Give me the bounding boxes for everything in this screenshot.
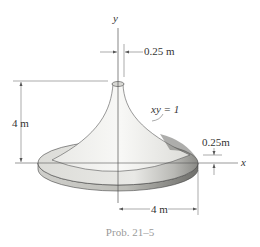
y-axis-label: y xyxy=(113,13,118,24)
height-label: 4 m xyxy=(12,118,29,129)
x-axis-label: x xyxy=(241,157,246,168)
curved-body xyxy=(52,84,190,171)
base-radius-label: 4 m xyxy=(151,204,168,215)
thickness-label: 0.25m xyxy=(202,137,230,148)
solid-of-revolution-figure xyxy=(0,0,260,247)
figure-caption: Prob. 21–5 xyxy=(0,226,260,238)
top-radius-label: 0.25 m xyxy=(144,46,175,57)
curve-equation-label: xy = 1 xyxy=(151,104,179,115)
